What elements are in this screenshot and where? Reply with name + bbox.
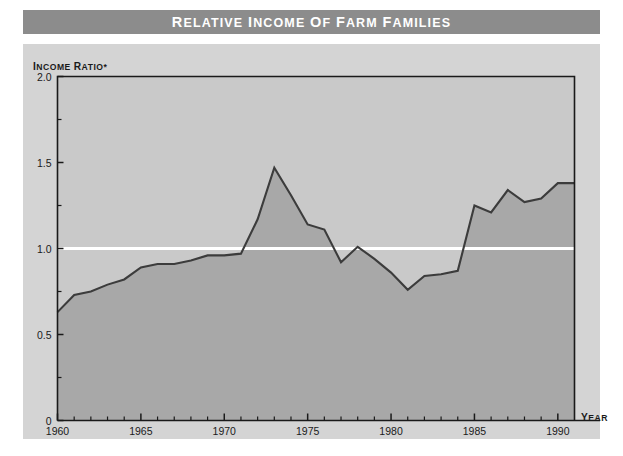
x-tick-label: 1970 — [202, 425, 246, 437]
x-axis-label: YEAR — [581, 412, 608, 423]
x-tick-label: 1965 — [119, 425, 163, 437]
x-tick-label: 1990 — [536, 425, 580, 437]
chart-figure: RELATIVE INCOME OF FARM FAMILIES INCOME … — [0, 0, 623, 456]
chart-panel — [23, 44, 600, 439]
y-tick-label: 1.5 — [18, 157, 52, 169]
y-tick-label: 1.0 — [18, 243, 52, 255]
x-tick-label: 1975 — [286, 425, 330, 437]
page-title: RELATIVE INCOME OF FARM FAMILIES — [172, 14, 451, 30]
chart-title-bar: RELATIVE INCOME OF FARM FAMILIES — [23, 10, 600, 34]
y-tick-label: 2.0 — [18, 71, 52, 83]
x-tick-label: 1985 — [452, 425, 496, 437]
x-tick-label: 1960 — [36, 425, 80, 437]
x-tick-label: 1980 — [369, 425, 413, 437]
y-tick-label: 0.5 — [18, 329, 52, 341]
